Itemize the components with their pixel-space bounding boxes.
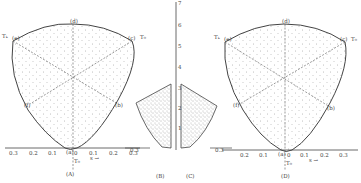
panel-d-x-axis-label: s → (309, 157, 319, 163)
panel-d-tick-r3: 0.3 (339, 152, 348, 158)
axis-tick-6: 6 (178, 22, 182, 28)
panel-a-left-arrow-label: Tₖ (2, 33, 9, 39)
panel-a-label-a: (a) (66, 149, 74, 155)
panel-d-label-e: (e) (224, 36, 232, 42)
panel-d-boundary (225, 24, 346, 152)
panel-d-right-arrow-label: T₀ (351, 36, 358, 42)
axis-tick-5: 5 (178, 43, 182, 49)
panel-a-label-f: (f) (24, 102, 30, 108)
panel-d-label-c: (c) (340, 36, 347, 42)
panel-a-x-axis-label: s → (90, 155, 100, 161)
panel-a: (d) (e) (c) (f) (b) (a) Tₖ T₀ 0.3 0.2 0.… (2, 18, 147, 177)
axis-tick-4: 4 (178, 64, 182, 70)
panel-b-wedge (136, 84, 171, 148)
panel-a-label-c: (c) (128, 35, 135, 41)
panel-a-tick-r0: 0 (74, 150, 78, 156)
panel-d-tick-r1: 0.1 (300, 152, 309, 158)
panel-c-wedge (181, 84, 217, 148)
panel-d-tick-r2: 0.2 (320, 152, 329, 158)
panel-d-origin-label: T₀ (286, 160, 293, 166)
panel-d-tick-r0: 0 (287, 152, 291, 158)
figure-canvas: (d) (e) (c) (f) (b) (a) Tₖ T₀ 0.3 0.2 0.… (0, 0, 361, 183)
panel-a-tick-r2: 0.2 (109, 150, 118, 156)
panel-a-right-arrow-label: T₀ (140, 34, 147, 40)
panel-d-left-arrow-label: Tₖ (214, 34, 221, 40)
panel-a-tick-l1: 0.1 (48, 150, 57, 156)
panel-d-label-d: (d) (282, 18, 290, 24)
panel-d-label-b: (b) (327, 105, 335, 111)
panel-d-tick-l2: 0.2 (240, 152, 249, 158)
panel-d-tick-l1: 0.1 (259, 152, 268, 158)
panel-bc: 7 6 5 4 3 2 1 0.3 0.3 (B) (C) (125, 0, 232, 179)
panel-c-caption: (C) (186, 173, 195, 179)
panel-b-caption: (B) (156, 173, 164, 179)
panel-d-caption: (D) (281, 173, 290, 179)
panel-a-label-e: (e) (12, 35, 20, 41)
panel-d: (d) (e) (c) (f) (b) (a) Tₖ T₀ 0.2 0.1 0 … (214, 18, 358, 179)
panel-a-label-d: (d) (70, 18, 78, 24)
side-tick-left: 0.3 (130, 147, 139, 153)
panel-a-caption: (A) (66, 171, 74, 177)
panel-d-label-f: (f) (233, 102, 239, 108)
panel-a-origin-label: T₀ (74, 158, 81, 164)
panel-a-tick-l2: 0.2 (29, 150, 38, 156)
panel-a-tick-l3: 0.3 (9, 150, 18, 156)
panel-a-label-b: (b) (115, 102, 123, 108)
axis-tick-7: 7 (178, 0, 182, 6)
panel-d-label-a: (a) (278, 151, 286, 157)
